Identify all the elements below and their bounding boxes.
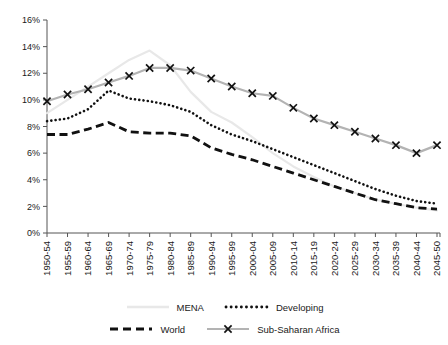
legend-label-developing: Developing (276, 302, 324, 313)
legend-label-mena: MENA (177, 302, 204, 313)
legend-item-developing: Developing (224, 301, 324, 313)
x-axis-tick-label: 2025-29 (349, 241, 360, 276)
x-axis-tick-label: 1970-74 (124, 241, 135, 276)
x-axis-tick-label: 1955-59 (62, 241, 73, 276)
y-axis-tick-label: 4% (27, 175, 40, 185)
x-axis-tick-label: 1950-54 (41, 241, 52, 276)
legend-swatch-sub-saharan-africa (205, 323, 251, 335)
x-axis-tick-label: 2020-24 (329, 241, 340, 276)
legend-item-world: World (108, 323, 205, 335)
x-axis-tick-label: 2000-04 (247, 241, 258, 276)
data-series-group (43, 51, 440, 211)
chart-plot-area: 0%2%4%6%8%10%12%14%16% 1950-541955-59196… (0, 0, 448, 300)
x-axis-tick-label: 2005-09 (267, 241, 278, 276)
x-axis-tick-label: 1995-99 (226, 241, 237, 276)
x-axis-tick-label: 1960-64 (82, 241, 93, 276)
y-axis-tick-label: 0% (27, 228, 40, 238)
y-axis: 0%2%4%6%8%10%12%14%16% (22, 15, 47, 238)
y-axis-tick-label: 2% (27, 202, 40, 212)
y-axis-tick-label: 6% (27, 148, 40, 158)
legend-row-top: MENA Developing (0, 296, 448, 318)
legend-swatch-world (108, 323, 154, 335)
y-axis-tick-label: 12% (22, 68, 40, 78)
chart-figure: 0%2%4%6%8%10%12%14%16% 1950-541955-59196… (0, 0, 448, 345)
series-mena (47, 51, 437, 211)
x-axis-tick-label: 2040-44 (411, 241, 422, 276)
x-axis-tick-label: 1975-79 (144, 241, 155, 276)
legend-item-sub-saharan-africa: Sub-Saharan Africa (205, 323, 339, 335)
x-axis-tick-labels: 1950-541955-591960-641965-691970-741975-… (41, 241, 442, 276)
x-axis-tick-label: 2010-14 (288, 241, 299, 276)
data-point-marker (290, 104, 297, 111)
x-axis-tick-label: 1990-94 (206, 241, 217, 276)
x-axis-tick-label: 2030-34 (370, 241, 381, 276)
legend-row-bottom: World Sub-Saharan Africa (0, 318, 448, 340)
y-axis-tick-label: 14% (22, 42, 40, 52)
y-axis-tick-label: 8% (27, 122, 40, 132)
legend-swatch-developing (224, 301, 270, 313)
x-axis (47, 233, 440, 237)
legend-label-world: World (160, 324, 185, 335)
chart-legend: MENA Developing World Sub-Saharan Africa (0, 296, 448, 340)
y-axis-tick-label: 10% (22, 95, 40, 105)
y-axis-tick-label: 16% (22, 15, 40, 25)
legend-label-sub-saharan-africa: Sub-Saharan Africa (257, 324, 339, 335)
x-axis-tick-label: 2015-19 (308, 241, 319, 276)
series-developing (47, 91, 437, 204)
legend-item-mena: MENA (125, 301, 224, 313)
x-axis-tick-label: 1965-69 (103, 241, 114, 276)
x-axis-tick-label: 2045-50 (431, 241, 442, 276)
x-axis-tick-label: 1985-89 (185, 241, 196, 276)
legend-swatch-mena (125, 301, 171, 313)
x-axis-tick-label: 1980-84 (165, 241, 176, 276)
x-axis-tick-label: 2035-39 (390, 241, 401, 276)
